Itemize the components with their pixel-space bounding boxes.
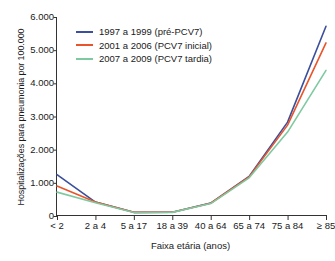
x-tick-label: 65 a 74 <box>233 221 265 231</box>
x-tick-label: ≥ 85 <box>317 221 335 231</box>
legend-item: 1997 a 1999 (pré-PCV7) <box>76 25 212 39</box>
x-tick-label: 2 a 4 <box>85 221 106 231</box>
x-tick-label: 18 a 39 <box>156 221 188 231</box>
chart-legend: 1997 a 1999 (pré-PCV7) 2001 a 2006 (PCV7… <box>76 25 212 66</box>
x-tick-label: 40 a 64 <box>195 221 227 231</box>
x-tick-label: 75 a 84 <box>272 221 304 231</box>
legend-item-label: 2007 a 2009 (PCV7 tardia) <box>99 52 212 66</box>
series-line <box>57 43 326 212</box>
legend-item-label: 1997 a 1999 (pré-PCV7) <box>99 25 203 39</box>
x-tick-label: 5 a 17 <box>121 221 147 231</box>
x-axis-title: Faixa etária (anos) <box>48 240 333 251</box>
legend-swatch-icon <box>76 31 93 33</box>
legend-swatch-icon <box>76 58 93 60</box>
legend-item: 2007 a 2009 (PCV7 tardia) <box>76 52 212 66</box>
series-line <box>57 70 326 212</box>
x-tick-label: < 2 <box>50 221 63 231</box>
legend-swatch-icon <box>76 44 93 46</box>
legend-item-label: 2001 a 2006 (PCV7 inicial) <box>99 39 212 53</box>
legend-item: 2001 a 2006 (PCV7 inicial) <box>76 39 212 53</box>
